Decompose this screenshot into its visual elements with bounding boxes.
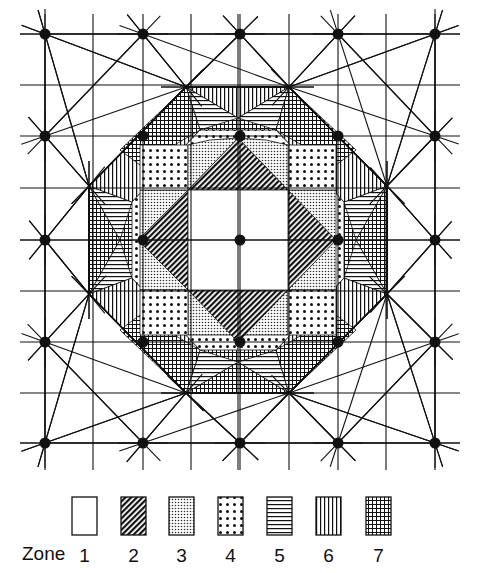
legend-swatches: 1234567 xyxy=(0,480,478,573)
grid-node-dot xyxy=(430,29,441,40)
legend-swatch-zone-7 xyxy=(366,497,391,535)
legend-zone-number: 5 xyxy=(274,545,285,566)
grid-node-dot xyxy=(40,131,51,142)
zone-diagram xyxy=(0,0,478,480)
ray-line xyxy=(272,375,338,443)
legend: Zone 1234567 xyxy=(0,480,478,573)
grid-node-dot xyxy=(40,29,51,40)
grid-node-dot xyxy=(138,235,149,246)
grid-node-dot xyxy=(430,235,441,246)
zone-4-region xyxy=(288,290,336,335)
legend-zone-number: 1 xyxy=(79,545,90,566)
grid-node-dot xyxy=(430,131,441,142)
grid-node-dot xyxy=(430,337,441,348)
grid-node-dot xyxy=(40,235,51,246)
legend-zone-number: 6 xyxy=(323,545,334,566)
legend-swatch-zone-1 xyxy=(72,497,97,535)
legend-swatch-zone-6 xyxy=(316,497,341,535)
grid-node-dot xyxy=(138,29,149,40)
grid-node-dot xyxy=(235,337,246,348)
ray-line xyxy=(272,34,338,105)
legend-swatch-zone-4 xyxy=(218,497,243,535)
grid-node-dot xyxy=(235,235,246,246)
grid-node-dot xyxy=(138,438,149,449)
ray-line xyxy=(45,276,106,342)
grid-node-dot xyxy=(333,235,344,246)
grid-node-dot xyxy=(235,131,246,142)
grid-node-dot xyxy=(235,29,246,40)
legend-zone-number: 3 xyxy=(176,545,187,566)
legend-zone-number: 7 xyxy=(373,545,384,566)
ray-line xyxy=(369,276,435,342)
grid-node-dot xyxy=(430,438,441,449)
grid-node-dot xyxy=(138,337,149,348)
grid-node-dot xyxy=(235,438,246,449)
legend-zone-number: 4 xyxy=(225,545,236,566)
grid-node-dot xyxy=(333,337,344,348)
zone-4-region xyxy=(140,290,188,335)
legend-swatch-zone-5 xyxy=(267,497,292,535)
legend-swatch-zone-2 xyxy=(121,497,146,535)
grid-node-dot xyxy=(333,29,344,40)
grid-node-dot xyxy=(40,438,51,449)
grid-node-dot xyxy=(333,438,344,449)
grid-node-dot xyxy=(333,131,344,142)
ray-line xyxy=(370,136,435,204)
ray-line xyxy=(45,136,106,205)
grid-node-dot xyxy=(40,337,51,348)
legend-zone-number: 2 xyxy=(128,545,139,566)
zone-4-region xyxy=(140,145,188,190)
legend-swatch-zone-3 xyxy=(169,497,194,535)
grid-node-dot xyxy=(138,131,149,142)
zone-4-region xyxy=(288,145,336,190)
